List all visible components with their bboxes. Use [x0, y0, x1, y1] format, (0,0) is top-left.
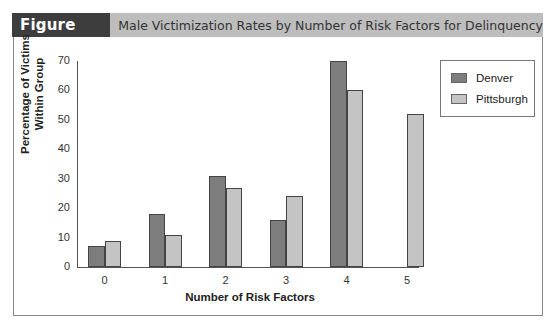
y-axis-label-line-2: Within Group	[32, 24, 46, 164]
bar-denver-1	[149, 214, 166, 267]
bar-pittsburgh-5	[407, 114, 424, 267]
bar-pittsburgh-4	[347, 90, 364, 267]
y-tick-label: 20	[46, 201, 70, 213]
y-tick-label: 30	[46, 172, 70, 184]
legend-item-denver: Denver	[451, 72, 513, 84]
bar-pittsburgh-3	[286, 196, 303, 267]
bar-pittsburgh-1	[165, 235, 182, 267]
bar-denver-0	[88, 246, 105, 267]
x-tick-label: 0	[95, 274, 115, 286]
legend-label-pittsburgh: Pittsburgh	[476, 93, 528, 105]
x-axis-line	[77, 267, 419, 268]
bar-denver-3	[270, 220, 287, 267]
x-tick-label: 3	[276, 274, 296, 286]
bar-pittsburgh-0	[105, 241, 122, 267]
y-tick-label: 60	[46, 83, 70, 95]
y-tick-label: 70	[46, 54, 70, 66]
legend-item-pittsburgh: Pittsburgh	[451, 93, 528, 105]
y-axis-label: Percentage of Victims Within Group	[18, 24, 46, 164]
legend-label-denver: Denver	[476, 72, 513, 84]
bar-chart: Percentage of Victims Within Group Numbe…	[0, 0, 556, 332]
y-tick-label: 40	[46, 142, 70, 154]
bar-denver-4	[330, 61, 347, 267]
x-tick-label: 5	[397, 274, 417, 286]
bar-pittsburgh-2	[226, 188, 243, 267]
x-tick-label: 2	[216, 274, 236, 286]
legend-swatch-denver	[451, 73, 467, 83]
legend-swatch-pittsburgh	[451, 94, 467, 104]
y-axis-label-line-1: Percentage of Victims	[18, 24, 32, 164]
y-tick-label: 50	[46, 113, 70, 125]
x-axis-label: Number of Risk Factors	[160, 291, 340, 303]
y-axis-line	[77, 61, 78, 267]
x-tick-label: 1	[155, 274, 175, 286]
y-tick-label: 0	[46, 260, 70, 272]
legend: Denver Pittsburgh	[440, 60, 535, 117]
x-tick-label: 4	[337, 274, 357, 286]
y-tick-label: 10	[46, 231, 70, 243]
bar-denver-2	[209, 176, 226, 267]
